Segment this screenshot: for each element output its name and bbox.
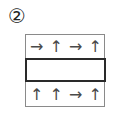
up-arrow-icon: ↑ [28,84,46,106]
up-arrow-icon: ↑ [47,84,65,106]
right-arrow-icon: → [28,36,46,58]
right-arrow-icon: → [67,36,85,58]
up-arrow-icon: ↑ [86,36,104,58]
bottom-arrow-row: ↑ ↑ → ↑ [27,84,105,106]
middle-band-box [25,58,106,82]
top-arrow-row: → ↑ → ↑ [27,36,105,58]
up-arrow-icon: ↑ [47,36,65,58]
figure-number-label: ② [8,6,26,26]
up-arrow-icon: ↑ [86,84,104,106]
right-arrow-icon: → [67,84,85,106]
